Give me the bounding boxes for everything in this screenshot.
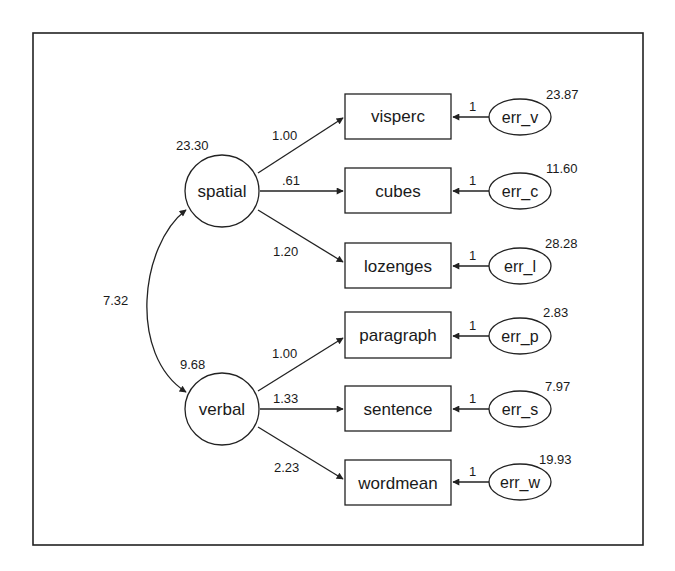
error-path-coefficient: 1 <box>469 173 476 188</box>
error-path-coefficient: 1 <box>469 464 476 479</box>
loading-value: 1.00 <box>272 346 297 361</box>
error-variance: 23.87 <box>546 87 579 102</box>
error-label: err_c <box>502 183 538 201</box>
error-label: err_l <box>504 258 536 276</box>
loading-path <box>258 118 343 173</box>
error-variance: 11.60 <box>546 161 578 176</box>
error-path-coefficient: 1 <box>469 248 476 263</box>
loading-value: 1.00 <box>272 128 297 143</box>
error-label: err_v <box>502 109 538 127</box>
error-variance: 28.28 <box>545 236 578 251</box>
error-term-err-v[interactable]: err_v <box>489 99 551 135</box>
error-label: err_w <box>500 474 540 492</box>
error-path-coefficient: 1 <box>469 99 476 114</box>
error-label: err_p <box>501 328 538 346</box>
sem-diagram: 7.32 spatial 23.30 verbal 9.68 1.00 .61 … <box>0 0 675 571</box>
observed-label: visperc <box>371 107 425 126</box>
factor-variance: 9.68 <box>180 357 205 372</box>
error-label: err_s <box>502 401 538 419</box>
observed-label: cubes <box>375 182 420 201</box>
observed-variable-wordmean[interactable]: wordmean <box>345 460 451 505</box>
error-term-err-c[interactable]: err_c <box>489 173 551 209</box>
observed-label: lozenges <box>364 257 432 276</box>
observed-label: sentence <box>364 400 433 419</box>
latent-factor-verbal[interactable]: verbal <box>185 373 259 445</box>
loading-value: 2.23 <box>274 460 299 475</box>
error-variance: 2.83 <box>543 305 568 320</box>
diagram-frame <box>33 33 643 545</box>
loading-path <box>258 210 343 262</box>
loading-path <box>258 427 343 479</box>
loading-value: 1.20 <box>273 244 298 259</box>
factor-label: verbal <box>199 400 245 419</box>
loading-value: .61 <box>282 173 300 188</box>
error-term-err-l[interactable]: err_l <box>489 248 551 284</box>
observed-variable-sentence[interactable]: sentence <box>345 386 451 431</box>
observed-label: wordmean <box>357 474 437 493</box>
observed-variable-lozenges[interactable]: lozenges <box>345 243 451 288</box>
factor-variance: 23.30 <box>176 138 209 153</box>
error-path-coefficient: 1 <box>469 391 476 406</box>
observed-variable-cubes[interactable]: cubes <box>345 168 451 213</box>
loading-path <box>258 338 343 391</box>
error-term-err-s[interactable]: err_s <box>489 391 551 427</box>
error-path-coefficient: 1 <box>469 318 476 333</box>
error-term-err-w[interactable]: err_w <box>489 464 551 500</box>
observed-variable-paragraph[interactable]: paragraph <box>345 312 451 358</box>
error-term-err-p[interactable]: err_p <box>489 318 551 354</box>
latent-factor-spatial[interactable]: spatial <box>185 155 259 227</box>
error-variance: 19.93 <box>539 452 572 467</box>
factor-label: spatial <box>197 182 246 201</box>
error-variance: 7.97 <box>545 379 570 394</box>
covariance-value: 7.32 <box>103 293 128 308</box>
loading-value: 1.33 <box>273 391 298 406</box>
observed-variable-visperc[interactable]: visperc <box>345 94 451 139</box>
observed-label: paragraph <box>359 326 437 345</box>
